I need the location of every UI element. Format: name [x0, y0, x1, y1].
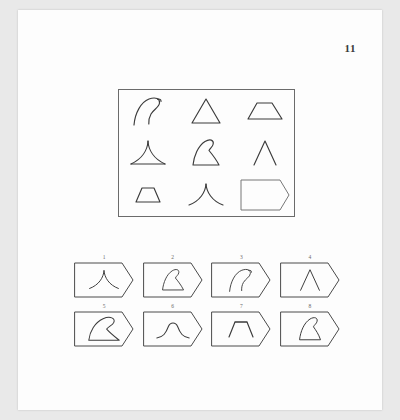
- answer-option-number: 3: [211, 254, 271, 260]
- answer-option-box[interactable]: [211, 311, 271, 347]
- bell-hump-icon: [155, 318, 191, 340]
- answer-option-2[interactable]: 2: [143, 255, 203, 298]
- answer-option-number: 2: [143, 254, 203, 260]
- concave-spire-base-icon: [129, 139, 167, 167]
- fin-hook-icon: [161, 268, 185, 292]
- answer-option-number: 6: [143, 303, 203, 309]
- fin-large-icon: [87, 316, 121, 343]
- trapezoid-small-icon: [227, 319, 255, 339]
- answer-option-box[interactable]: [143, 262, 203, 298]
- answer-option-figure: [280, 262, 340, 298]
- concave-peak-icon: [187, 182, 225, 208]
- answer-option-figure: [280, 311, 340, 347]
- answer-option-figure: [143, 311, 203, 347]
- answer-option-box[interactable]: [74, 262, 134, 298]
- answer-option-box[interactable]: [280, 311, 340, 347]
- caret-icon: [298, 268, 322, 292]
- page-number: 11: [345, 42, 356, 54]
- trapezoid-wide-icon: [246, 100, 284, 122]
- answer-option-box[interactable]: [74, 311, 134, 347]
- trapezoid-small-icon: [134, 185, 162, 205]
- test-page-sheet: 11: [18, 10, 382, 410]
- matrix-cell-r2c2: [177, 132, 235, 174]
- answer-blank-tag-icon: [240, 179, 290, 211]
- answer-option-number: 8: [280, 303, 340, 309]
- answer-option-1[interactable]: 1: [74, 255, 134, 298]
- matrix-cell-r2c1: [119, 132, 177, 174]
- wave-hook-curve-icon: [131, 95, 165, 127]
- answer-option-4[interactable]: 4: [280, 255, 340, 298]
- matrix-cell-r3c1: [119, 174, 177, 216]
- matrix-problem-box: [118, 89, 295, 217]
- answer-option-figure: [74, 311, 134, 347]
- answer-option-box[interactable]: [211, 262, 271, 298]
- wave-hook-curve-icon: [226, 267, 256, 293]
- matrix-cell-r1c1: [119, 90, 177, 132]
- matrix-cell-r3c2: [177, 174, 235, 216]
- answer-option-6[interactable]: 6: [143, 304, 203, 347]
- answer-options: 1 2: [74, 255, 340, 353]
- answer-option-box[interactable]: [280, 262, 340, 298]
- answer-options-row-2: 5 6: [74, 304, 340, 347]
- triangle-icon: [190, 97, 222, 125]
- answer-option-figure: [143, 262, 203, 298]
- answer-option-box[interactable]: [143, 311, 203, 347]
- fin-hook-icon: [191, 138, 221, 168]
- fin-hook-thick-icon: [296, 316, 324, 342]
- matrix-cell-r1c2: [177, 90, 235, 132]
- answer-option-3[interactable]: 3: [211, 255, 271, 298]
- answer-option-5[interactable]: 5: [74, 304, 134, 347]
- matrix-cell-r1c3: [236, 90, 294, 132]
- answer-option-number: 5: [74, 303, 134, 309]
- answer-option-number: 4: [280, 254, 340, 260]
- matrix-cell-r2c3: [236, 132, 294, 174]
- answer-option-8[interactable]: 8: [280, 304, 340, 347]
- answer-option-figure: [211, 262, 271, 298]
- answer-option-number: 7: [211, 303, 271, 309]
- answer-option-figure: [211, 311, 271, 347]
- matrix-cell-answer-blank[interactable]: [236, 174, 294, 216]
- concave-peak-icon: [87, 269, 121, 291]
- answer-option-figure: [74, 262, 134, 298]
- answer-option-7[interactable]: 7: [211, 304, 271, 347]
- caret-icon: [251, 139, 279, 167]
- answer-option-number: 1: [74, 254, 134, 260]
- matrix-grid: [119, 90, 294, 216]
- answer-options-row-1: 1 2: [74, 255, 340, 298]
